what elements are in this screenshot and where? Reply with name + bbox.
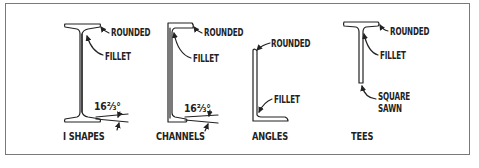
channel-fillet-label: FILLET bbox=[193, 54, 219, 64]
i-shape-drawing bbox=[65, 24, 129, 130]
tee-caption: TEES bbox=[351, 131, 373, 142]
angle-rounded-label: ROUNDED bbox=[271, 39, 310, 49]
channel-slope-label: 16⅔° bbox=[184, 103, 211, 114]
channel-caption: CHANNELS bbox=[156, 131, 205, 142]
i-shape-caption: I SHAPES bbox=[63, 131, 105, 142]
tee-rounded-label: ROUNDED bbox=[390, 27, 429, 37]
angle-fillet-label: FILLET bbox=[274, 95, 300, 105]
i-shape-rounded-label: ROUNDED bbox=[111, 28, 150, 38]
tee-square-label: SQUARE bbox=[378, 92, 410, 102]
tee-fillet-label: FILLET bbox=[380, 51, 406, 61]
channel-rounded-label: ROUNDED bbox=[204, 28, 243, 38]
tee-sawn-label: SAWN bbox=[378, 104, 402, 114]
angle-caption: ANGLES bbox=[252, 131, 288, 142]
angle-drawing bbox=[253, 43, 288, 121]
i-shape-slope-label: 16⅔° bbox=[94, 101, 121, 112]
i-shape-fillet-label: FILLET bbox=[105, 52, 131, 62]
